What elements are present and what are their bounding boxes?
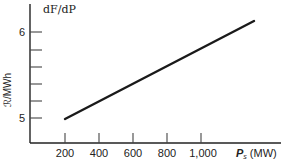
x-tick-label-200: 200 [56,147,74,159]
x-tick-label-600: 600 [124,147,142,159]
chart-title: dF/dP [43,3,76,16]
x-ticks [65,133,201,143]
y-axis-label: ℛ/MWh [2,73,13,107]
x-tick-label-800: 800 [158,147,176,159]
x-tick-label-1000: 1,000 [189,147,217,159]
chart: 6 5 ℛ/MWh dF/dP 200 400 600 800 1,000 Ps… [0,0,283,162]
x-axis-label: Ps(MW) [236,147,277,160]
y-tick-label-6: 6 [19,26,25,38]
y-tick-label-5: 5 [19,112,25,124]
series-line [65,21,254,119]
x-tick-label-400: 400 [90,147,108,159]
y-ticks [30,32,42,118]
